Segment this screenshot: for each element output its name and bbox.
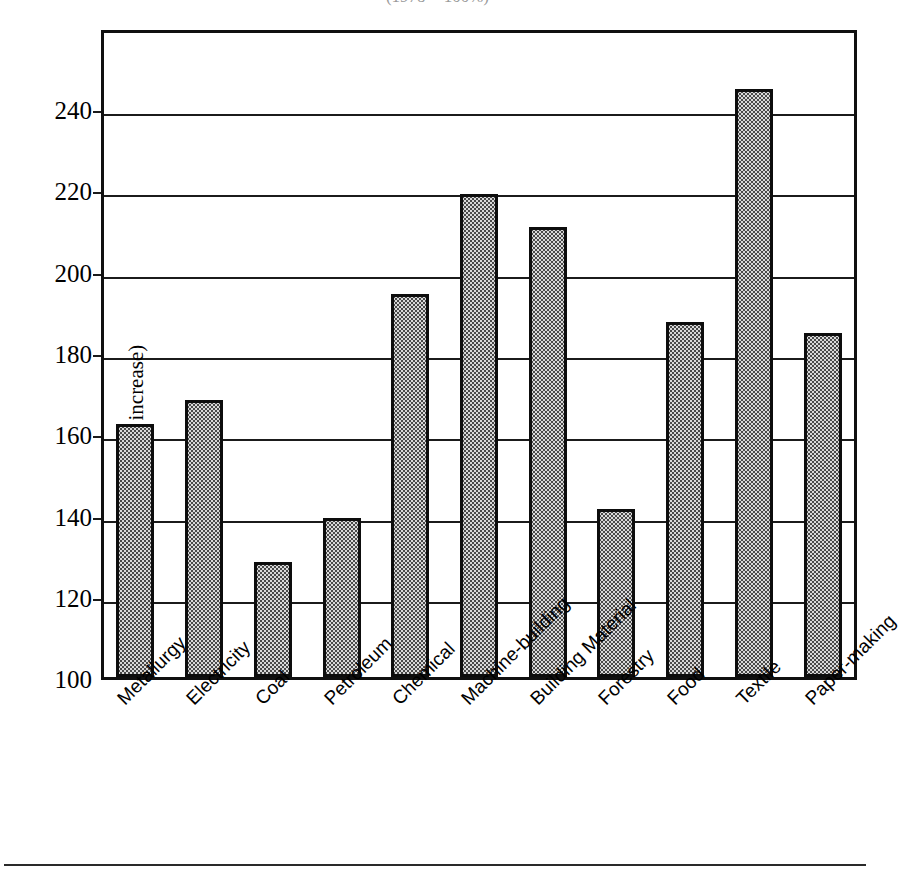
x-axis-label-food: Food: [663, 663, 709, 709]
x-axis-label-forestry: Forestry: [594, 645, 659, 710]
page-bottom-rule: [4, 864, 866, 866]
x-axis-label-coal: Coal: [251, 666, 294, 709]
x-axis-label-textile: Textile: [732, 656, 786, 710]
x-axis-label-metallurgy: Metallurgy: [113, 632, 191, 710]
x-axis-label-paper-making: Paper-making: [801, 610, 900, 709]
x-axis-label-electricity: Electricity: [182, 637, 255, 710]
x-axis-label-chemical: Chemical: [388, 638, 460, 710]
x-axis-label-petroleum: Petroleum: [320, 633, 397, 710]
